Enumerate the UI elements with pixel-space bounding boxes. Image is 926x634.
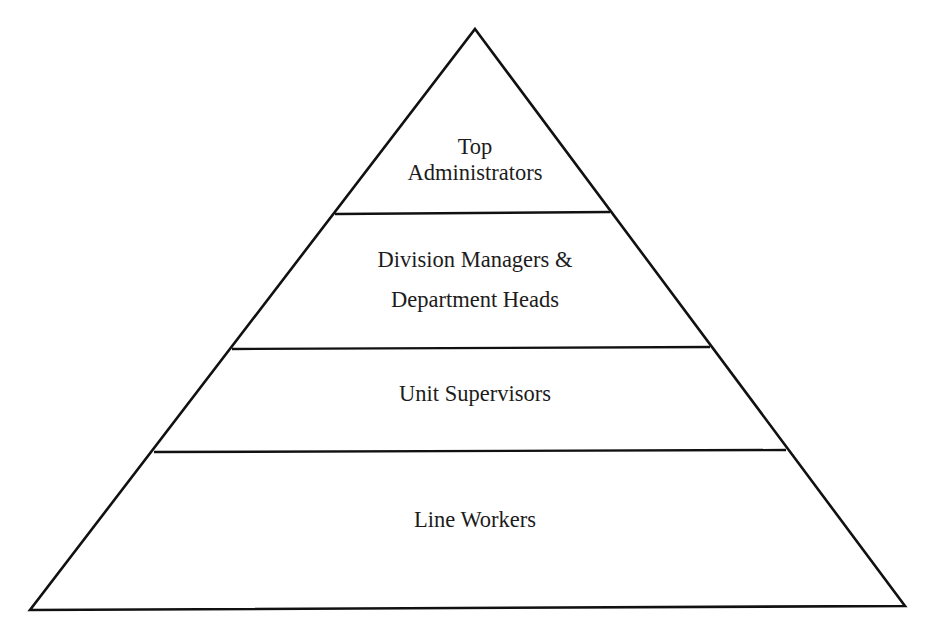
tier-label-line: Department Heads bbox=[325, 280, 625, 320]
tier-label-line: Top bbox=[375, 134, 575, 160]
tier-label-division-managers: Division Managers & Department Heads bbox=[325, 240, 625, 320]
tier-divider-3 bbox=[154, 450, 786, 452]
tier-label-line: Line Workers bbox=[325, 505, 625, 535]
tier-label-unit-supervisors: Unit Supervisors bbox=[325, 379, 625, 409]
tier-divider-2 bbox=[232, 347, 710, 349]
tier-label-line: Unit Supervisors bbox=[325, 379, 625, 409]
tier-label-line-workers: Line Workers bbox=[325, 505, 625, 535]
tier-label-line: Division Managers & bbox=[325, 240, 625, 280]
tier-label-top-administrators: Top Administrators bbox=[375, 134, 575, 186]
tier-divider-1 bbox=[335, 212, 610, 214]
tier-label-line: Administrators bbox=[375, 160, 575, 186]
